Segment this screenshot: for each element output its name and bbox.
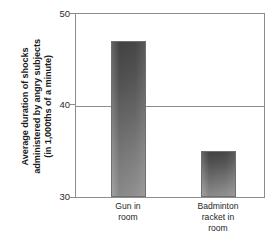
gridline-40 (76, 106, 264, 107)
x-axis-label-1-line-1: Badminton (180, 201, 256, 212)
x-axis-label-badminton-racket-in-room: Badminton racket in room (180, 201, 256, 234)
y-axis-tick-label-40: 40 (44, 99, 70, 110)
x-axis-label-1-line-3: room (180, 223, 256, 234)
x-axis-label-1-line-2: racket in (180, 212, 256, 223)
bar-badminton-racket-in-room (201, 151, 236, 197)
x-axis-label-0-line-2: room (92, 212, 164, 223)
plot-area (75, 13, 265, 198)
y-axis-tick-label-50: 50 (44, 8, 70, 19)
bar-chart: Average duration of shocks administered … (0, 0, 279, 245)
y-axis-title-line-1: Average duration of shocks (20, 39, 32, 174)
bar-gun-in-room (111, 41, 146, 197)
y-axis-tick-label-30: 30 (44, 191, 70, 202)
y-axis-title-line-2: administered by angry subjects (31, 39, 43, 174)
x-axis-label-0-line-1: Gun in (92, 201, 164, 212)
x-axis-label-gun-in-room: Gun in room (92, 201, 164, 223)
